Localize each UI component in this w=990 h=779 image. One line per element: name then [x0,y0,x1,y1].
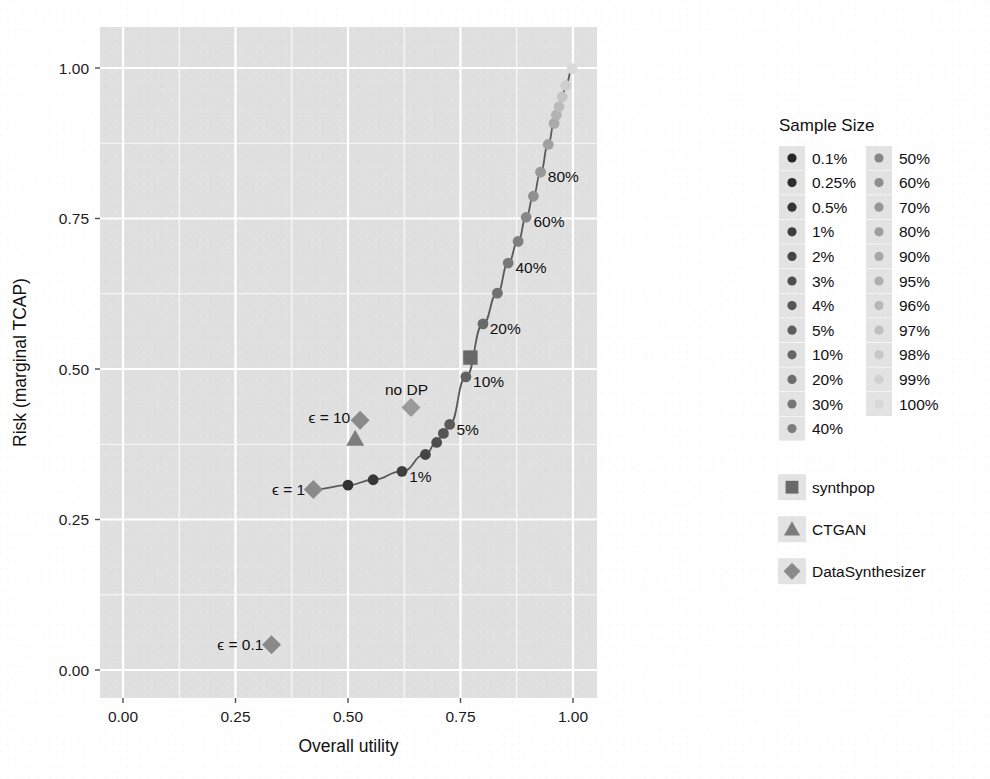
data-point-circle [543,139,554,150]
legend-item-sample-size[interactable]: 100% [866,392,939,416]
legend-item-label: 3% [812,273,835,290]
y-axis-tick-label: 0.50 [59,361,90,378]
legend-marker-square [786,481,799,494]
model-annotation-label: ϵ = 0.1 [217,636,263,653]
legend-marker-circle [874,326,883,335]
legend-item-label: 10% [812,346,843,363]
legend-item-sample-size[interactable]: 70% [866,195,930,219]
legend-marker-circle [874,153,883,162]
model-annotation-label: ϵ = 10 [308,409,350,426]
legend-item-sample-size[interactable]: 50% [866,146,930,170]
legend-marker-circle [874,178,883,187]
legend-item-label: 30% [812,396,843,413]
legend-item-sample-size[interactable]: 90% [866,244,930,268]
x-axis-tick-label: 0.25 [220,708,250,725]
legend-marker-circle [787,350,796,359]
curve-annotation-label: 1% [409,468,432,485]
legend-title-sample-size: Sample Size [779,116,874,135]
legend-item-sample-size[interactable]: 10% [779,343,843,367]
legend-marker-circle [787,301,796,310]
legend-item-sample-size[interactable]: 40% [779,417,843,441]
legend-marker-circle [874,203,883,212]
legend-item-label: 70% [899,199,930,216]
curve-annotation-label: 10% [473,373,504,390]
data-point-circle [368,474,379,485]
legend-item-sample-size[interactable]: 30% [779,392,843,416]
curve-annotation-label: 5% [456,421,479,438]
legend-item-label: 5% [812,322,835,339]
legend-item-sample-size[interactable]: 99% [866,367,930,391]
legend-marker-circle [787,399,796,408]
legend-item-square[interactable]: synthpop [778,474,875,500]
legend-item-label: 1% [812,223,835,240]
legend-item-label: 96% [899,297,930,314]
data-point-circle [535,167,546,178]
curve-annotation-label: 40% [515,259,546,276]
y-axis-title: Risk (marginal TCAP) [10,278,30,447]
legend-marker-circle [787,375,796,384]
legend-item-label: 0.5% [812,199,848,216]
legend-item-sample-size[interactable]: 60% [866,171,930,195]
y-axis-tick-label: 0.75 [59,210,89,227]
legend-item-sample-size[interactable]: 80% [866,220,930,244]
legend-marker-circle [787,153,796,162]
data-point-circle [492,288,503,299]
curve-annotation-label: 80% [548,168,579,185]
legend-item-label: 2% [812,248,835,265]
legend-item-sample-size[interactable]: 0.25% [779,171,856,195]
legend-marker-circle [874,375,883,384]
legend-marker-circle [874,227,883,236]
data-point-circle [513,236,524,247]
legend-marker-circle [787,178,796,187]
x-axis-tick-label: 1.00 [558,708,589,725]
legend-item-diamond[interactable]: DataSynthesizer [778,558,926,584]
data-point-circle [343,480,354,491]
legend-marker-circle [787,424,796,433]
data-point-circle [521,212,532,223]
legend-item-label: 20% [812,371,843,388]
data-point-circle [431,437,442,448]
legend-marker-circle [787,203,796,212]
legend-marker-circle [874,252,883,261]
legend-item-label: 40% [812,420,843,437]
legend-item-sample-size[interactable]: 3% [779,269,835,293]
legend-marker-circle [874,301,883,310]
data-point-circle [397,466,408,477]
legend-marker-circle [787,326,796,335]
legend-item-label: DataSynthesizer [812,563,926,580]
y-axis-tick-label: 1.00 [59,60,90,77]
legend-item-label: 0.1% [812,150,848,167]
legend-item-sample-size[interactable]: 98% [866,343,930,367]
legend-item-sample-size[interactable]: 2% [779,244,835,268]
legend-item-label: 100% [899,396,939,413]
legend-marker-circle [787,276,796,285]
legend-marker-circle [874,399,883,408]
legend-marker-circle [874,350,883,359]
legend-item-label: 50% [899,150,930,167]
legend-item-sample-size[interactable]: 0.1% [779,146,848,170]
legend-marker-circle [874,276,883,285]
legend-item-label: 4% [812,297,835,314]
legend-item-sample-size[interactable]: 95% [866,269,930,293]
risk-utility-scatter-plot: 0.000.250.500.751.000.000.250.500.751.00… [0,0,990,779]
legend-item-label: synthpop [812,479,875,496]
legend-item-sample-size[interactable]: 1% [779,220,835,244]
legend-item-label: 99% [899,371,930,388]
legend-item-label: 98% [899,346,930,363]
legend-item-triangle[interactable]: CTGAN [778,516,866,542]
x-axis-tick-label: 0.00 [108,708,139,725]
legend-item-sample-size[interactable]: 4% [779,294,835,318]
data-point-circle [528,191,539,202]
legend-item-sample-size[interactable]: 20% [779,367,843,391]
data-point-circle [567,63,578,74]
legend-marker-circle [787,227,796,236]
legend-item-sample-size[interactable]: 96% [866,294,930,318]
legend-item-sample-size[interactable]: 5% [779,318,835,342]
legend-item-label: 0.25% [812,174,856,191]
data-point-circle [461,371,472,382]
legend-item-sample-size[interactable]: 0.5% [779,195,848,219]
curve-annotation-label: 60% [533,213,564,230]
legend-item-sample-size[interactable]: 97% [866,318,930,342]
legend-marker-circle [787,252,796,261]
model-annotation-label: ϵ = 1 [272,481,305,498]
